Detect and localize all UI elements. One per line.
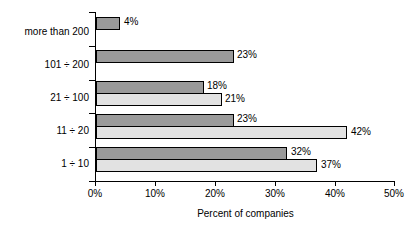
- bar-value-more-than-200-series-a: 4%: [124, 16, 138, 28]
- bar-value-1-10-series-b: 37%: [321, 159, 341, 171]
- category-axis-line: [95, 181, 395, 182]
- bar-more-than-200-series-a: [96, 17, 120, 30]
- value-tick-0: [95, 181, 96, 186]
- value-tick-label-20: 20%: [195, 188, 235, 199]
- value-tick-40: [335, 181, 336, 186]
- value-tick-label-40: 40%: [315, 188, 355, 199]
- category-axis-labels: more than 200 101 ÷ 200 21 ÷ 100 11 ÷ 20…: [0, 12, 89, 182]
- value-tick-50: [394, 181, 395, 186]
- value-tick-label-0: 0%: [75, 188, 115, 199]
- value-tick-label-10: 10%: [135, 188, 175, 199]
- value-tick-30: [275, 181, 276, 186]
- category-label-21-100: 21 ÷ 100: [1, 92, 89, 103]
- x-axis-title: Percent of companies: [96, 208, 395, 219]
- category-tick-2: [89, 80, 96, 81]
- category-tick-3: [89, 113, 96, 114]
- bar-value-21-100-series-a: 18%: [207, 80, 227, 92]
- bar-value-1-10-series-a: 32%: [291, 146, 311, 158]
- bar-value-11-20-series-b: 42%: [351, 126, 371, 138]
- value-tick-label-50: 50%: [374, 188, 414, 199]
- category-label-1-10: 1 ÷ 10: [1, 158, 89, 169]
- bar-value-101-200-series-a: 23%: [237, 49, 257, 61]
- category-label-more-than-200: more than 200: [1, 26, 89, 37]
- value-tick-10: [155, 181, 156, 186]
- category-label-101-200: 101 ÷ 200: [1, 59, 89, 70]
- bar-21-100-series-b: [96, 93, 222, 106]
- bar-11-20-series-b: [96, 126, 347, 139]
- bar-1-10-series-b: [96, 159, 317, 172]
- category-tick-1: [89, 46, 96, 47]
- bar-value-21-100-series-b: 21%: [225, 93, 245, 105]
- bar-101-200-series-a: [96, 50, 234, 63]
- value-tick-label-30: 30%: [255, 188, 295, 199]
- plot-area: 4% 23% 18% 21% 23% 42% 32% 37%: [96, 12, 395, 180]
- value-tick-20: [215, 181, 216, 186]
- category-tick-4: [89, 147, 96, 148]
- category-label-11-20: 11 ÷ 20: [1, 125, 89, 136]
- bar-chart: more than 200 101 ÷ 200 21 ÷ 100 11 ÷ 20…: [0, 0, 417, 237]
- category-tick-top: [89, 12, 96, 13]
- bar-value-11-20-series-a: 23%: [237, 113, 257, 125]
